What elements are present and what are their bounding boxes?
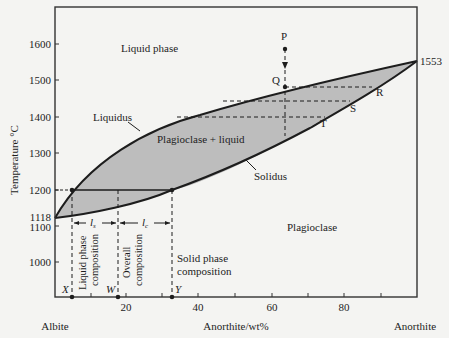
liquidus-leader <box>128 122 140 131</box>
arrow-down-icon <box>282 62 288 69</box>
y-tick-label: 1500 <box>29 74 52 86</box>
solidus-label: Solidus <box>254 170 287 182</box>
overall-composition-line1: Overall <box>121 246 132 278</box>
point-label-w: W <box>106 283 116 295</box>
y-tick-label: 1300 <box>29 147 52 159</box>
point-x-marker <box>70 295 75 300</box>
y-tick-label: 1100 <box>29 221 51 233</box>
region-label-liquid: Liquid phase <box>121 42 178 54</box>
lever-ls-label: ls <box>90 216 96 230</box>
liquid-composition-line2: composition <box>89 233 100 286</box>
point-p-marker <box>283 47 287 51</box>
x-axis-labels: 20 40 60 80 <box>121 301 351 313</box>
point-y-marker <box>170 295 175 300</box>
solid-composition-line1: Solid phase <box>177 252 228 264</box>
x-tick-label: 60 <box>267 301 279 313</box>
endmember-left-label: Albite <box>41 320 69 332</box>
lever-lc-label: lc <box>142 216 149 230</box>
point-label-q: Q <box>272 74 280 86</box>
point-q-marker <box>283 85 287 89</box>
point-label-p: P <box>281 30 287 42</box>
y-tick-label: 1000 <box>29 256 52 268</box>
solidus-leader <box>246 160 256 170</box>
y-tick-label: 1600 <box>29 38 52 50</box>
point-w-marker <box>116 295 121 300</box>
point-label-t: T <box>320 117 327 129</box>
liquid-composition-line1: Liquid phase <box>77 235 88 290</box>
x-tick-label: 40 <box>193 301 205 313</box>
x-tick-label: 80 <box>339 301 351 313</box>
y-axis-title: Temperature °C <box>8 125 20 195</box>
y-tick-label: 1400 <box>29 111 52 123</box>
point-label-s: S <box>350 102 356 114</box>
liquidus-label: Liquidus <box>93 111 132 123</box>
lever-arrows <box>74 221 170 225</box>
region-label-two-phase: Plagioclase + liquid <box>157 133 245 145</box>
x-tick-label: 20 <box>121 301 133 313</box>
point-label-r: R <box>376 86 384 98</box>
point-label-x: X <box>61 283 70 295</box>
x-axis-title: Anorthite/wt% <box>203 320 268 332</box>
y-axis-labels: 1600 1500 1400 1300 1200 1118 1100 1000 <box>29 38 52 268</box>
region-label-plagioclase: Plagioclase <box>287 221 337 233</box>
phase-diagram: 1600 1500 1400 1300 1200 1118 1100 1000 … <box>0 0 449 338</box>
anorthite-melting-label: 1553 <box>420 55 443 67</box>
overall-composition-line2: composition <box>133 233 144 286</box>
y-tick-label: 1200 <box>29 184 52 196</box>
solid-composition-line2: composition <box>177 265 232 277</box>
point-label-y: Y <box>175 283 183 295</box>
endmember-right-label: Anorthite <box>394 320 436 332</box>
